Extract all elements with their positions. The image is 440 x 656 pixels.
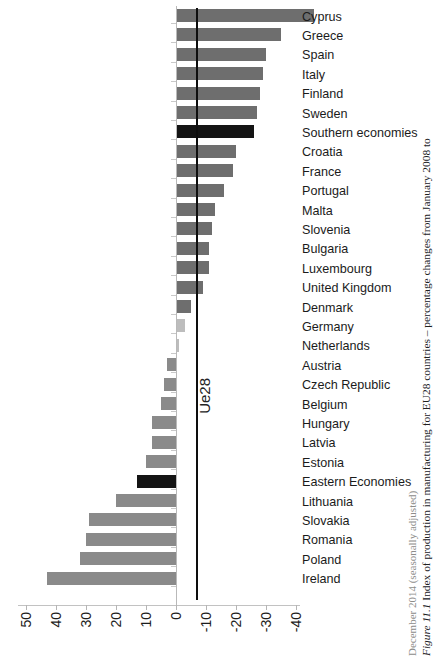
bar-portugal <box>176 184 224 197</box>
bar-row <box>0 45 300 63</box>
bar-row <box>0 394 300 412</box>
y-axis-tick <box>171 489 176 490</box>
category-label-portugal: Portugal <box>302 182 349 200</box>
bar-row <box>0 297 300 315</box>
x-axis-tick <box>146 605 147 610</box>
y-axis-tick <box>171 372 176 373</box>
x-axis-tick <box>86 605 87 610</box>
bar-austria <box>167 358 176 371</box>
y-axis-tick <box>171 586 176 587</box>
bar-germany <box>176 319 185 332</box>
bar-row <box>0 219 300 237</box>
bar-sweden <box>176 106 257 119</box>
bar-row <box>0 103 300 121</box>
bar-belgium <box>161 397 176 410</box>
category-label-latvia: Latvia <box>302 434 336 452</box>
bar-row <box>0 569 300 587</box>
x-axis-line <box>18 605 300 606</box>
bar-row <box>0 181 300 199</box>
bar-italy <box>176 67 263 80</box>
zero-axis-line <box>176 6 177 606</box>
bar-row <box>0 472 300 490</box>
bar-spain <box>176 48 266 61</box>
caption-line-1: Figure 11.1 Index of production in manuf… <box>421 0 432 656</box>
y-axis-tick <box>171 411 176 412</box>
y-axis-tick <box>171 42 176 43</box>
category-label-germany: Germany <box>302 318 354 336</box>
y-axis-tick <box>171 527 176 528</box>
bar-united-kingdom <box>176 281 203 294</box>
bar-chart-plot-area <box>0 6 300 600</box>
category-label-ireland: Ireland <box>302 570 341 588</box>
category-label-finland: Finland <box>302 85 343 103</box>
category-label-sweden: Sweden <box>302 105 348 123</box>
bar-row <box>0 491 300 509</box>
category-label-greece: Greece <box>302 27 343 45</box>
bar-row <box>0 316 300 334</box>
bar-ireland <box>47 572 176 585</box>
bar-row <box>0 375 300 393</box>
category-label-netherlands: Netherlands <box>302 337 370 355</box>
bar-slovakia <box>89 513 176 526</box>
y-axis-tick <box>171 314 176 315</box>
bar-row <box>0 336 300 354</box>
y-axis-tick <box>171 295 176 296</box>
category-label-romania: Romania <box>302 531 352 549</box>
ue28-reference-label: Ue28 <box>196 378 213 414</box>
category-label-france: France <box>302 163 341 181</box>
bar-czech-republic <box>164 378 176 391</box>
category-label-lithuania: Lithuania <box>302 493 353 511</box>
y-axis-tick <box>171 62 176 63</box>
bar-hungary <box>152 416 176 429</box>
figure-number: Figure 11.1 <box>420 603 432 656</box>
y-axis-tick <box>171 256 176 257</box>
bar-row <box>0 413 300 431</box>
ue28-reference-line <box>196 8 198 600</box>
category-label-united-kingdom: United Kingdom <box>302 279 392 297</box>
y-axis-tick <box>171 450 176 451</box>
category-label-slovenia: Slovenia <box>302 221 350 239</box>
category-label-bulgaria: Bulgaria <box>302 240 348 258</box>
bar-row <box>0 530 300 548</box>
bar-row <box>0 161 300 179</box>
bar-row <box>0 452 300 470</box>
y-axis-tick <box>171 430 176 431</box>
bar-row <box>0 6 300 24</box>
x-axis-tick <box>296 605 297 610</box>
y-axis-tick <box>171 547 176 548</box>
bar-row <box>0 433 300 451</box>
bar-row <box>0 64 300 82</box>
category-label-italy: Italy <box>302 66 325 84</box>
x-axis-tick <box>26 605 27 610</box>
y-axis-tick <box>171 81 176 82</box>
y-axis-tick <box>171 333 176 334</box>
category-label-austria: Austria <box>302 357 341 375</box>
bar-row <box>0 278 300 296</box>
x-axis-tick <box>176 605 177 610</box>
y-axis-tick <box>171 139 176 140</box>
figure-container: Ue28 50403020100-10-20-30-40 CyprusGreec… <box>0 0 440 656</box>
bar-romania <box>86 533 176 546</box>
bar-row <box>0 84 300 102</box>
bar-row <box>0 200 300 218</box>
y-axis-tick <box>171 392 176 393</box>
category-label-malta: Malta <box>302 202 333 220</box>
figure-caption: Figure 11.1 Index of production in manuf… <box>398 0 438 656</box>
category-label-spain: Spain <box>302 46 334 64</box>
x-axis-tick <box>236 605 237 610</box>
bar-row <box>0 258 300 276</box>
y-axis-tick <box>171 353 176 354</box>
bar-row <box>0 25 300 43</box>
bar-luxembourg <box>176 261 209 274</box>
bar-row <box>0 355 300 373</box>
bar-denmark <box>176 300 191 313</box>
bar-slovenia <box>176 222 212 235</box>
bar-row <box>0 142 300 160</box>
y-axis-tick <box>171 101 176 102</box>
bar-greece <box>176 28 281 41</box>
x-axis-tick-label: -40 <box>288 612 328 632</box>
caption-line-2: December 2014 (seasonally adjusted) <box>407 0 418 656</box>
bar-bulgaria <box>176 242 209 255</box>
category-label-croatia: Croatia <box>302 143 343 161</box>
bar-row <box>0 510 300 528</box>
